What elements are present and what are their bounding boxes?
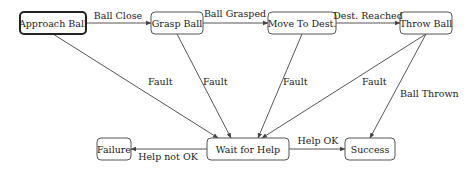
state-node-approach: Approach Ball [18, 12, 87, 34]
state-label: Grasp Ball [152, 18, 203, 29]
state-node-move: Move To Dest. [268, 12, 337, 34]
state-label: Approach Ball [18, 18, 87, 29]
edge-label: Dest. Reached [333, 10, 403, 21]
edge-label: Help not OK [138, 151, 199, 162]
state-node-failure: Failure [97, 138, 131, 160]
edge-approach-to-wait [53, 34, 218, 138]
edge-arrow-line [53, 34, 218, 138]
state-label: Wait for Help [216, 144, 280, 155]
state-label: Throw Ball [400, 18, 453, 29]
edge-label: Fault [203, 76, 228, 87]
state-label: Success [351, 144, 390, 155]
edge-label: Fault [283, 76, 308, 87]
state-node-wait: Wait for Help [207, 138, 289, 160]
state-diagram: Approach BallGrasp BallMove To Dest.Thro… [0, 0, 470, 172]
edge-label: Ball Grasped [204, 8, 266, 19]
state-node-throw: Throw Ball [400, 12, 453, 34]
state-node-grasp: Grasp Ball [151, 12, 203, 34]
state-label: Move To Dest. [268, 18, 337, 29]
edge-label: Fault [362, 76, 387, 87]
edge-label: Ball Close [94, 10, 143, 21]
edge-label: Ball Thrown [400, 88, 459, 99]
edge-label: Help OK [298, 135, 340, 146]
edge-label: Fault [148, 76, 173, 87]
state-label: Failure [97, 144, 131, 155]
state-node-success: Success [345, 138, 395, 160]
